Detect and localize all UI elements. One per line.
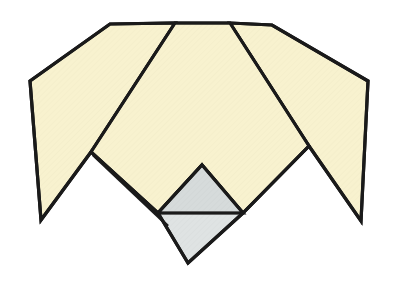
origami-figure: Origami fold step diagram Flat-folded pa… bbox=[0, 0, 398, 287]
origami-diagram-canvas: Origami fold step diagram Flat-folded pa… bbox=[0, 0, 398, 287]
